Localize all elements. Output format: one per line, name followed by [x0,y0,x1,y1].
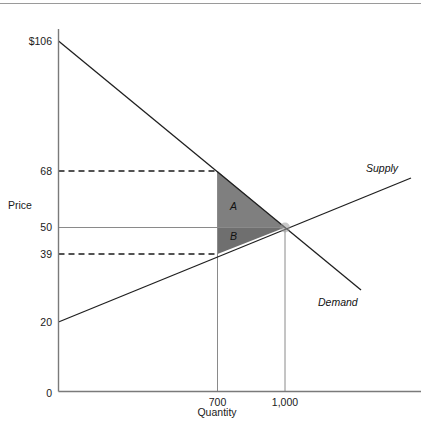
y-axis-title: Price [8,200,32,211]
y-tick-label-0: 0 [8,388,52,399]
y-tick-label-39: 39 [8,249,52,260]
y-tick-label-106: $106 [8,36,52,47]
y-tick-label-68: 68 [8,166,52,177]
demand-curve [59,41,362,290]
region-b-label: B [230,231,237,242]
supply-curve-label: Supply [366,163,398,174]
x-axis-title: Quantity [197,407,236,418]
chart-plot-area [0,0,421,431]
supply-demand-figure: $106 68 50 39 20 0 Price 700 1,000 Quant… [0,0,421,431]
y-tick-label-20: 20 [8,317,52,328]
x-tick-label-1000: 1,000 [262,397,308,408]
shaded-region-b [218,228,286,255]
region-a-label: A [230,201,237,212]
demand-curve-label: Demand [318,297,358,308]
equilibrium-point-marker [280,223,290,233]
y-tick-label-50: 50 [8,222,52,233]
